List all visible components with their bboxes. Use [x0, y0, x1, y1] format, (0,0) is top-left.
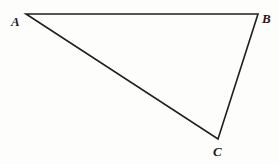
- triangle-abc-shape: [26, 14, 258, 139]
- vertex-label-c: C: [213, 145, 222, 158]
- triangle-diagram-canvas: [0, 0, 279, 164]
- geometry-figure: A B C: [0, 0, 279, 164]
- vertex-label-b: B: [262, 12, 271, 25]
- vertex-label-a: A: [11, 15, 20, 28]
